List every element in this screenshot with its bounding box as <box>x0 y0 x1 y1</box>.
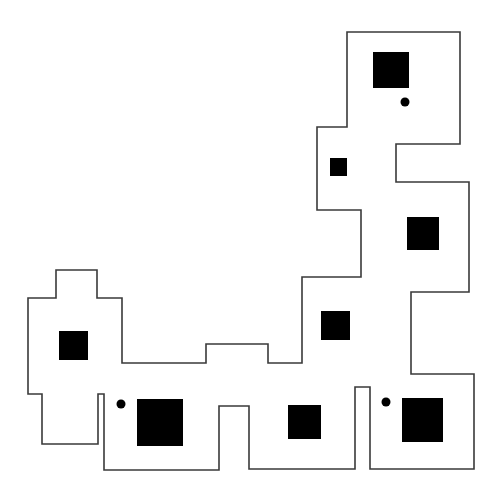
obstacle-square <box>373 52 409 88</box>
marker-dot <box>401 98 410 107</box>
floor-plan-map <box>0 0 497 496</box>
obstacle-square <box>330 158 347 176</box>
obstacle-square <box>288 405 321 439</box>
marker-dot <box>117 400 126 409</box>
marker-dot <box>382 398 391 407</box>
obstacle-square <box>402 398 443 442</box>
obstacle-square <box>137 399 183 446</box>
obstacle-square <box>59 331 88 360</box>
obstacle-square <box>407 217 439 250</box>
obstacle-square <box>321 311 350 340</box>
